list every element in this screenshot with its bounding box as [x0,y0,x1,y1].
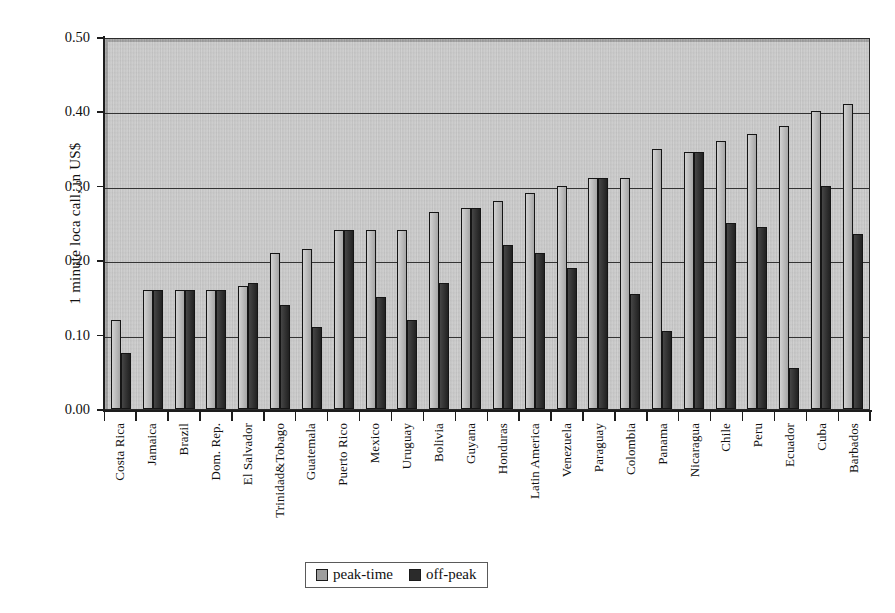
plot-area [104,38,870,410]
x-label-cell: Chile [711,423,743,553]
x-tick-label: Guatemala [303,423,319,480]
bar-off-peak [694,152,704,409]
bar-peak-time [843,104,853,409]
x-tick-mark [359,412,391,421]
x-label-cell: Ecuador [774,423,806,553]
x-tick-mark [647,412,679,421]
x-tick-mark [200,412,232,421]
x-label-cell: Guyana [455,423,487,553]
y-tick-label: 0.40 [38,104,90,119]
bar-group [614,39,646,409]
bar-peak-time [684,152,694,409]
legend-entry-peak-time: peak-time [316,566,393,583]
x-label-cell: Bolivia [423,423,455,553]
bar-group [232,39,264,409]
x-label-cell: Dom. Rep. [200,423,232,553]
bar-peak-time [588,178,598,409]
bar-off-peak [376,297,386,409]
x-label-cell: Colombia [615,423,647,553]
bar-peak-time [175,290,185,409]
x-tick-label: Ecuador [782,423,798,467]
bar-off-peak [630,294,640,409]
x-tick-label: Honduras [495,423,511,474]
x-tick-mark [838,412,870,421]
bar-chart-figure: 1 minute loca call, in US$ 0.500.400.300… [0,0,895,613]
x-tick-label: El Salvador [240,423,256,485]
y-axis-ticks: 0.500.400.300.200.100.00 [38,0,104,613]
x-tick-label: Colombia [623,423,639,475]
bar-off-peak [471,208,481,409]
bar-peak-time [143,290,153,409]
x-tick-label: Peru [750,423,766,447]
x-tick-label: Guyana [463,423,479,464]
legend-swatch-off-peak-icon [409,569,421,581]
bar-off-peak [789,368,799,409]
x-tick-label: Brazil [176,423,192,455]
x-tick-mark [296,412,328,421]
bar-off-peak [248,283,258,409]
bar-off-peak [503,245,513,409]
x-tick-mark [742,412,774,421]
bar-group [487,39,519,409]
legend-entry-off-peak: off-peak [409,566,477,583]
x-label-cell: Costa Rica [104,423,136,553]
bar-peak-time [302,249,312,409]
y-tick-label: 0.20 [38,253,90,268]
chart-legend: peak-time off-peak [305,562,488,588]
x-tick-label: Panama [655,423,671,465]
legend-label-off-peak: off-peak [426,566,477,583]
bar-peak-time [206,290,216,409]
bar-peak-time [111,320,121,409]
bar-off-peak [280,305,290,409]
x-tick-label: Trinidad&Tobago [272,423,288,518]
bar-peak-time [811,111,821,409]
bar-group [200,39,232,409]
y-tick-label: 0.30 [38,179,90,194]
x-label-cell: Uruguay [391,423,423,553]
bar-group [169,39,201,409]
x-label-cell: Jamaica [136,423,168,553]
x-tick-mark [264,412,296,421]
bar-off-peak [821,186,831,409]
x-label-cell: Mexico [359,423,391,553]
bar-peak-time [366,230,376,409]
x-tick-mark [806,412,838,421]
x-tick-mark [583,412,615,421]
x-tick-mark [104,412,136,421]
bar-group [678,39,710,409]
x-label-cell: Brazil [168,423,200,553]
bar-peak-time [238,286,248,409]
x-tick-mark [679,412,711,421]
x-tick-mark [519,412,551,421]
x-label-cell: Latin America [519,423,551,553]
x-tick-label: Jamaica [144,423,160,466]
bar-group [646,39,678,409]
bar-off-peak [757,227,767,409]
x-tick-mark [136,412,168,421]
bar-group [582,39,614,409]
bar-peak-time [716,141,726,409]
x-tick-label: Venezuela [559,423,575,477]
legend-swatch-peak-time-icon [316,569,328,581]
bar-groups [105,39,869,409]
bar-peak-time [652,149,662,409]
bar-group [805,39,837,409]
x-label-cell: Guatemala [296,423,328,553]
x-label-cell: Trinidad&Tobago [264,423,296,553]
bar-peak-time [429,212,439,409]
legend-label-peak-time: peak-time [333,566,393,583]
bar-group [742,39,774,409]
bar-peak-time [397,230,407,409]
bar-off-peak [312,327,322,409]
x-label-cell: Honduras [487,423,519,553]
x-tick-mark [455,412,487,421]
bar-peak-time [557,186,567,409]
bar-peak-time [493,201,503,409]
x-tick-mark [774,412,806,421]
bar-off-peak [153,290,163,409]
bar-group [773,39,805,409]
x-tick-label: Bolivia [431,423,447,462]
x-tick-label: Latin America [527,423,543,499]
bar-group [391,39,423,409]
bar-off-peak [185,290,195,409]
